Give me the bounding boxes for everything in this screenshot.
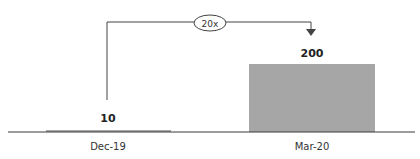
multiplier-label: 20x <box>202 19 219 29</box>
value-label-dec-19: 10 <box>100 112 116 125</box>
value-label-mar-20: 200 <box>301 47 324 60</box>
category-label-mar-20: Mar-20 <box>295 141 330 152</box>
arrow-down-icon <box>306 29 316 36</box>
category-label-dec-19: Dec-19 <box>90 141 126 152</box>
bar-chart: 10 200 Dec-19 Mar-20 20x <box>0 0 420 159</box>
bar-mar-20 <box>249 64 375 132</box>
